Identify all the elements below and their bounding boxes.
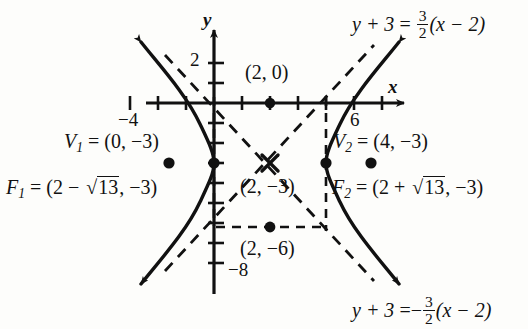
focus-1-subscript: 1 — [18, 186, 25, 201]
vertex-2-open: ( — [373, 130, 380, 152]
focus-2-y: −3 — [455, 176, 476, 198]
vertex-2-comma: , — [390, 130, 395, 152]
focus-1-equals: = — [30, 176, 41, 198]
vertex-1-symbol: V — [64, 130, 76, 152]
focus-1-two: 2 — [53, 176, 63, 198]
vertex-2-y: −3 — [400, 130, 421, 152]
focus-2-symbol: F — [332, 176, 344, 198]
asym-pos-denominator: 2 — [417, 24, 429, 41]
label-focus-1: F1 = (2 − √13, −3) — [6, 176, 157, 201]
asym-neg-slope-fraction: 3 2 — [423, 294, 435, 327]
asym-neg-lhs: y + 3 — [352, 299, 394, 321]
y-tick-label-2: 2 — [190, 50, 200, 69]
asym-pos-slope-fraction: 3 2 — [417, 8, 429, 41]
focus-2-close: ) — [477, 176, 484, 198]
asym-pos-rhs: (x − 2) — [429, 13, 485, 35]
plot-canvas — [0, 0, 528, 329]
label-vertex-2: V2 = (4, −3) — [333, 131, 428, 155]
label-asymptote-negative: y + 3 =− 3 2 (x − 2) — [352, 294, 491, 327]
label-point-2-neg6: (2, −6) — [240, 238, 295, 258]
x-axis-label: x — [388, 77, 398, 96]
marker-point-2-neg6 — [265, 222, 276, 233]
y-tick-label-neg8: −8 — [228, 260, 248, 279]
asym-pos-equals: = — [399, 13, 410, 35]
label-vertex-1: V1 = (0, −3) — [64, 131, 159, 155]
vertex-2-subscript: 2 — [345, 140, 352, 155]
asym-pos-numerator: 3 — [417, 8, 429, 24]
vertex-2-close: ) — [421, 130, 428, 152]
label-center-2-neg3: (2, −3) — [240, 176, 295, 196]
x-tick-label-6: 6 — [350, 110, 360, 129]
focus-2-open: ( — [372, 176, 379, 198]
focus-1-y: −3 — [129, 176, 150, 198]
marker-point-2-0 — [265, 98, 275, 108]
x-tick-label-neg4: −4 — [118, 110, 138, 129]
focus-1-radical: √13 — [84, 176, 119, 197]
focus-2-equals: = — [356, 176, 367, 198]
focus-1-radicand: 13 — [97, 176, 119, 197]
asym-neg-sign: − — [411, 299, 422, 321]
vertex-2-x: 4 — [380, 130, 390, 152]
left-branch — [141, 42, 214, 284]
focus-2-radical: √13 — [410, 176, 445, 197]
radical-sign-2: √ — [412, 177, 423, 197]
focus-1-comma: , — [119, 176, 124, 198]
vertex-1-x: 0 — [111, 130, 121, 152]
focus-1-symbol: F — [6, 176, 18, 198]
focus-2-subscript: 2 — [344, 186, 351, 201]
focus-2-radicand: 13 — [423, 176, 445, 197]
vertex-2-symbol: V — [333, 130, 345, 152]
asym-neg-numerator: 3 — [423, 294, 435, 310]
vertex-1-comma: , — [121, 130, 126, 152]
vertex-1-open: ( — [104, 130, 111, 152]
marker-focus-2 — [365, 157, 376, 168]
focus-1-open: ( — [46, 176, 53, 198]
asym-neg-denominator: 2 — [423, 310, 435, 327]
asym-neg-rhs: (x − 2) — [436, 299, 492, 321]
marker-vertex-1 — [208, 157, 219, 168]
marker-vertex-2 — [320, 157, 331, 168]
label-asymptote-positive: y + 3 = 3 2 (x − 2) — [352, 8, 485, 41]
marker-focus-1 — [163, 157, 174, 168]
radical-sign: √ — [86, 177, 97, 197]
asym-pos-lhs: y + 3 — [352, 13, 394, 35]
vertex-1-equals: = — [88, 130, 99, 152]
y-axis-label: y — [203, 10, 211, 29]
focus-2-comma: , — [445, 176, 450, 198]
focus-2-plus: + — [394, 176, 405, 198]
vertex-1-close: ) — [152, 130, 159, 152]
vertex-2-equals: = — [357, 130, 368, 152]
focus-1-close: ) — [151, 176, 158, 198]
label-point-2-0: (2, 0) — [245, 62, 288, 82]
hyperbola-figure: y x 2 −8 −4 6 (2, 0) (2, −3) (2, −6) V1 … — [0, 0, 528, 329]
focus-1-minus: − — [68, 176, 79, 198]
focus-2-two: 2 — [379, 176, 389, 198]
label-focus-2: F2 = (2 + √13, −3) — [332, 176, 483, 201]
vertex-1-y: −3 — [131, 130, 152, 152]
asym-neg-equals: = — [399, 299, 410, 321]
vertex-1-subscript: 1 — [76, 140, 83, 155]
